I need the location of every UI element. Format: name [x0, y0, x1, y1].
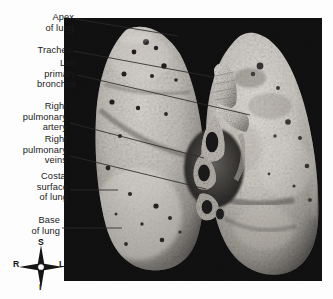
compass-label-right: R — [13, 259, 19, 269]
label-apex-of-lung: Apex of lung — [2, 12, 74, 33]
label-left-primary-bronchus: Left primary bronchus — [2, 58, 76, 90]
label-right-pulmonary-veins: Right pulmonary veins — [0, 134, 67, 166]
compass-label-inferior: I — [39, 282, 41, 292]
specimen-photograph — [64, 18, 322, 281]
compass-label-superior: S — [38, 237, 44, 247]
lung-specimens-illustration — [64, 18, 322, 281]
label-right-pulmonary-artery: Right pulmonary artery — [0, 101, 67, 133]
label-trachea: Trachea — [2, 45, 72, 56]
compass-label-left: L — [59, 259, 64, 269]
label-costal-surface-of-lung: Costal surface of lung — [2, 171, 68, 203]
label-base-of-lung: Base of lung — [2, 215, 60, 236]
anatomy-figure: Apex of lung Trachea Left primary bronch… — [0, 0, 333, 299]
orientation-compass-rose: S I R L — [12, 238, 70, 296]
